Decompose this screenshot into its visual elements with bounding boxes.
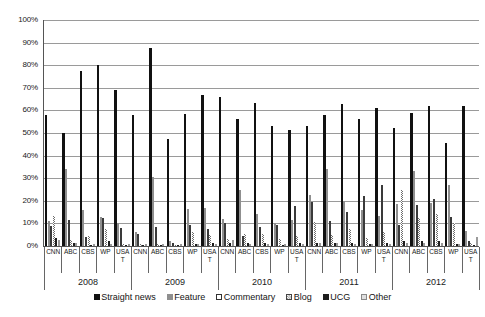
- bar: [110, 244, 112, 246]
- legend-item-straight-news[interactable]: Straight news: [94, 292, 156, 302]
- category-tick-cbs: CBS: [254, 247, 271, 273]
- category-label: USA T: [202, 248, 218, 263]
- category-tick-usa-t: USA T: [376, 247, 393, 273]
- legend-item-blog[interactable]: Blog: [286, 292, 312, 302]
- y-tick-label: 0%: [27, 242, 38, 250]
- year-label: 2010: [252, 277, 272, 287]
- year-label: 2009: [165, 277, 185, 287]
- year-tick-2009: 2009: [132, 273, 219, 290]
- bar: [284, 244, 286, 246]
- legend-swatch-icon: [323, 294, 329, 300]
- category-tick-cbs: CBS: [341, 247, 358, 273]
- outlet-bar-group: [96, 20, 113, 246]
- legend-label: Feature: [174, 292, 205, 302]
- bar: [128, 244, 130, 246]
- outlet-bar-group: [409, 20, 426, 246]
- bar: [167, 139, 169, 246]
- bar: [319, 243, 321, 246]
- category-tick-wp: WP: [97, 247, 114, 273]
- year-block: [218, 20, 305, 246]
- bar: [249, 244, 251, 246]
- y-tick-label: 100%: [18, 16, 38, 24]
- legend-swatch-icon: [361, 294, 367, 300]
- category-label: CNN: [46, 248, 60, 256]
- bar-groups: [44, 20, 479, 246]
- category-year-block: CNNABCCBSWPUSA T: [219, 247, 306, 273]
- category-year-block: CNNABCCBSWPUSA T: [393, 247, 480, 273]
- legend-item-ucg[interactable]: UCG: [323, 292, 351, 302]
- outlet-bar-group: [253, 20, 270, 246]
- bar: [354, 244, 356, 246]
- outlet-bar-group: [357, 20, 374, 246]
- year-block: [305, 20, 392, 246]
- bar: [302, 244, 304, 246]
- category-tick-cnn: CNN: [132, 247, 149, 273]
- bar: [58, 240, 60, 246]
- legend-swatch-icon: [286, 294, 292, 300]
- y-tick-label: 20%: [23, 197, 38, 205]
- category-tick-cnn: CNN: [393, 247, 410, 273]
- category-label: CBS: [168, 248, 181, 256]
- category-tick-abc: ABC: [236, 247, 253, 273]
- category-label: WP: [274, 248, 284, 256]
- bar: [132, 115, 134, 246]
- legend-label: Straight news: [101, 292, 156, 302]
- category-label: ABC: [64, 248, 77, 256]
- category-tick-cbs: CBS: [167, 247, 184, 273]
- bar: [197, 244, 199, 246]
- year-tick-2011: 2011: [306, 273, 393, 290]
- legend-swatch-icon: [94, 294, 100, 300]
- category-tick-abc: ABC: [323, 247, 340, 273]
- category-label: WP: [448, 248, 458, 256]
- category-label: ABC: [238, 248, 251, 256]
- year-label: 2012: [426, 277, 446, 287]
- outlet-bar-group: [79, 20, 96, 246]
- outlet-bar-group: [427, 20, 444, 246]
- category-tick-usa-t: USA T: [463, 247, 480, 273]
- category-tick-abc: ABC: [62, 247, 79, 273]
- chart-container: 0%10%20%30%40%50%60%70%80%90%100% CNNABC…: [0, 0, 485, 317]
- year-axis: 20082009201020112012: [44, 273, 480, 290]
- category-label: CBS: [342, 248, 355, 256]
- outlet-bar-group: [148, 20, 165, 246]
- category-tick-cnn: CNN: [45, 247, 62, 273]
- outlet-bar-group: [44, 20, 61, 246]
- bar: [458, 244, 460, 246]
- year-tick-2010: 2010: [219, 273, 306, 290]
- legend-item-commentary[interactable]: Commentary: [216, 292, 275, 302]
- category-tick-wp: WP: [445, 247, 462, 273]
- category-tick-usa-t: USA T: [289, 247, 306, 273]
- bar: [389, 244, 391, 246]
- category-tick-usa-t: USA T: [115, 247, 132, 273]
- bar: [75, 243, 77, 246]
- outlet-bar-group: [462, 20, 479, 246]
- outlet-bar-group: [201, 20, 218, 246]
- category-label: USA T: [463, 248, 479, 263]
- category-tick-cnn: CNN: [306, 247, 323, 273]
- year-label: 2008: [78, 277, 98, 287]
- outlet-bar-group: [322, 20, 339, 246]
- plot-area: [44, 20, 479, 246]
- legend-item-feature[interactable]: Feature: [167, 292, 206, 302]
- bar: [462, 106, 464, 246]
- bar: [93, 244, 95, 246]
- category-label: CBS: [429, 248, 442, 256]
- outlet-bar-group: [218, 20, 235, 246]
- legend-item-other[interactable]: Other: [361, 292, 391, 302]
- category-tick-cnn: CNN: [219, 247, 236, 273]
- category-label: ABC: [325, 248, 338, 256]
- category-label: WP: [100, 248, 110, 256]
- category-year-block: CNNABCCBSWPUSA T: [306, 247, 393, 273]
- category-label: USA T: [289, 248, 305, 263]
- outlet-bar-group: [305, 20, 322, 246]
- y-tick-label: 50%: [23, 129, 38, 137]
- category-tick-abc: ABC: [410, 247, 427, 273]
- bar: [371, 244, 373, 246]
- category-year-block: CNNABCCBSWPUSA T: [132, 247, 219, 273]
- bar: [401, 190, 403, 247]
- outlet-bar-group: [392, 20, 409, 246]
- outlet-bar-group: [61, 20, 78, 246]
- y-tick-label: 30%: [23, 174, 38, 182]
- category-tick-cbs: CBS: [428, 247, 445, 273]
- year-block: [44, 20, 131, 246]
